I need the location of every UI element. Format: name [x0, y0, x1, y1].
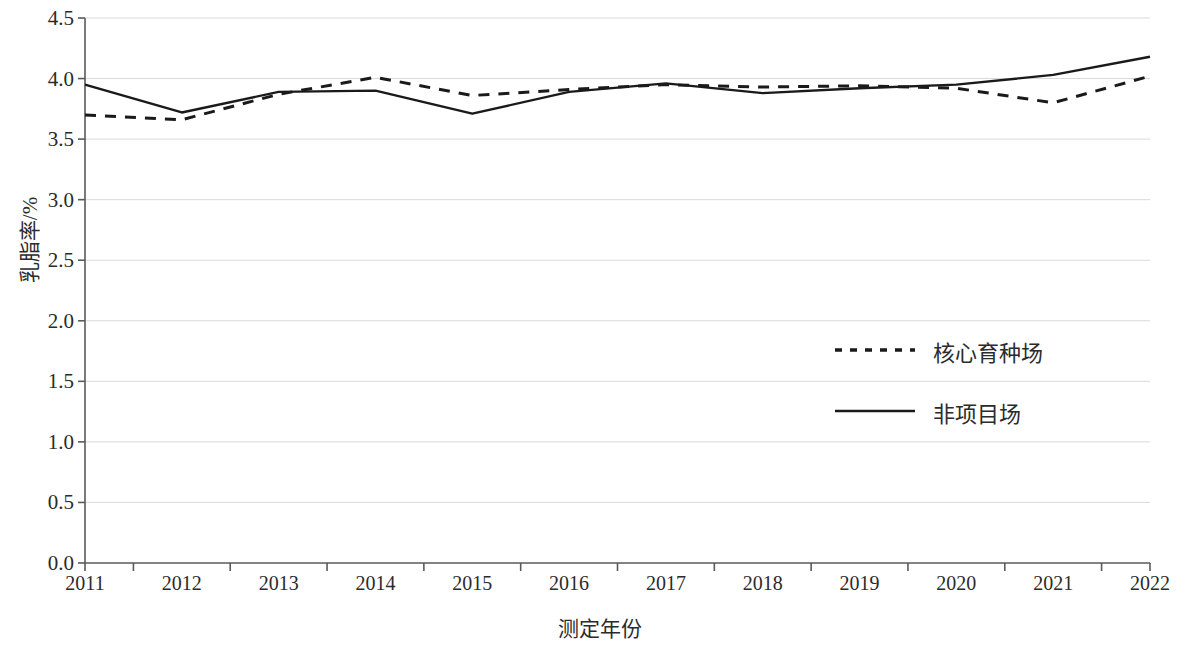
- legend-item-label: 非项目场: [933, 396, 1021, 428]
- plot-area: [0, 0, 1199, 645]
- series-line-2: [85, 57, 1150, 114]
- line-chart: 乳脂率/% 0.00.51.01.52.02.53.03.54.04.5 201…: [0, 0, 1199, 645]
- legend-item-label: 核心育种场: [933, 335, 1043, 367]
